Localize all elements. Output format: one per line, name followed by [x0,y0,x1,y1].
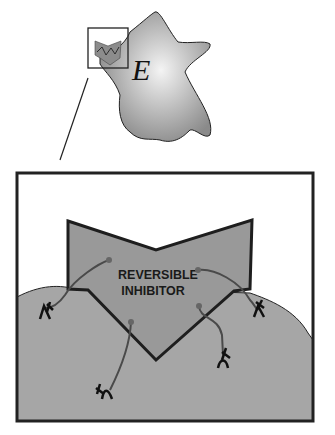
reversible-inhibitor-diagram: E REVERSIBLE INHIBITOR [0,0,335,435]
zoom-connector-line [60,78,88,160]
inhibitor-label-line2: INHIBITOR [121,284,185,298]
enzyme-label: E [131,53,150,86]
inhibitor-label-line1: REVERSIBLE [118,268,198,282]
magnified-view: REVERSIBLE INHIBITOR [17,173,313,421]
enzyme-shape [100,12,211,142]
